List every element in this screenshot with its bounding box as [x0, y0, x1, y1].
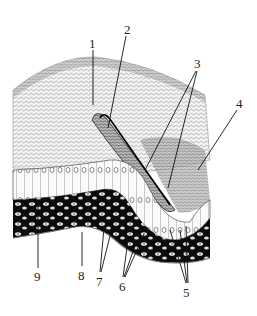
label-6: 6: [119, 279, 126, 294]
label-1: 1: [89, 36, 96, 51]
label-9: 9: [34, 269, 41, 284]
histology-figure: 1 2 3 4 5 6 7 8 9: [0, 0, 257, 316]
label-2: 2: [124, 22, 131, 37]
label-4: 4: [236, 96, 243, 111]
label-3: 3: [194, 56, 201, 71]
label-8: 8: [78, 268, 85, 283]
label-7: 7: [96, 274, 103, 289]
label-5: 5: [183, 285, 190, 300]
